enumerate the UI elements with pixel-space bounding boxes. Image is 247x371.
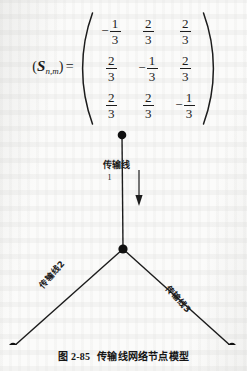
- transmission-line-2-segment: [13, 249, 123, 345]
- figure-caption: 图 2-85传输线网络节点模型: [0, 348, 247, 363]
- numerator: 2: [108, 91, 115, 105]
- denominator: 3: [186, 106, 193, 120]
- numerator: 1: [186, 91, 193, 105]
- numerator: 1: [112, 17, 119, 31]
- numerator: 2: [108, 54, 115, 68]
- matrix-cell: 2 3: [98, 87, 124, 124]
- direction-arrow-icon: [135, 170, 142, 206]
- scattering-matrix-symbol: S: [37, 58, 46, 74]
- cell-sign: −: [138, 60, 145, 77]
- transmission-line-1-label: 传输线 1: [103, 160, 116, 183]
- figure-caption-text: 传输线网络节点模型: [97, 351, 189, 362]
- fraction: 2 3: [106, 91, 117, 120]
- matrix-cell: 2 3: [135, 13, 161, 50]
- transmission-line-1-label-text: 传输线: [103, 160, 130, 170]
- matrix-grid: − 1 3 2 3 2 3: [94, 11, 202, 126]
- matrix-cell: 2 3: [172, 13, 198, 50]
- fraction: 2 3: [180, 54, 191, 83]
- denominator: 3: [108, 106, 115, 120]
- numerator: 2: [182, 54, 189, 68]
- fraction: 2 3: [143, 17, 154, 46]
- cell-sign: −: [175, 97, 182, 114]
- transmission-line-1-segment: [122, 135, 123, 249]
- numerator: 2: [182, 17, 189, 31]
- equals-sign: =: [66, 59, 74, 74]
- node-top-terminal: [118, 131, 127, 140]
- denominator: 3: [108, 69, 115, 83]
- numerator: 2: [145, 17, 152, 31]
- matrix-body: − 1 3 2 3 2 3: [81, 11, 215, 126]
- matrix-left-bracket: [81, 11, 94, 126]
- matrix-cell: 2 3: [135, 87, 161, 124]
- matrix-equation: (Sn,m)= − 1 3 2 3: [0, 6, 247, 130]
- fraction: 1 3: [147, 54, 158, 83]
- matrix-cell: 2 3: [172, 50, 198, 87]
- matrix-cell: 2 3: [98, 50, 124, 87]
- fraction: 1 3: [110, 17, 121, 46]
- denominator: 3: [182, 69, 189, 83]
- denominator: 3: [145, 106, 152, 120]
- matrix-cell: − 1 3: [135, 50, 161, 87]
- numerator: 1: [149, 54, 156, 68]
- numerator: 2: [145, 91, 152, 105]
- fraction: 2 3: [180, 17, 191, 46]
- transmission-line-1-index: 1: [103, 172, 116, 183]
- matrix-right-bracket: [202, 11, 215, 126]
- fraction: 1 3: [184, 91, 195, 120]
- matrix-label: (Sn,m)=: [32, 58, 74, 78]
- figure-number: 图 2-85: [58, 351, 90, 362]
- matrix-cell: − 1 3: [98, 13, 124, 50]
- node-junction: [118, 244, 127, 253]
- denominator: 3: [182, 32, 189, 46]
- denominator: 3: [149, 69, 156, 83]
- cell-sign: −: [101, 23, 108, 40]
- scattering-matrix-subscript: n,m: [46, 66, 59, 76]
- denominator: 3: [145, 32, 152, 46]
- paren-close: ): [59, 59, 64, 74]
- fraction: 2 3: [143, 91, 154, 120]
- matrix-cell: − 1 3: [172, 87, 198, 124]
- fraction: 2 3: [106, 54, 117, 83]
- denominator: 3: [112, 32, 119, 46]
